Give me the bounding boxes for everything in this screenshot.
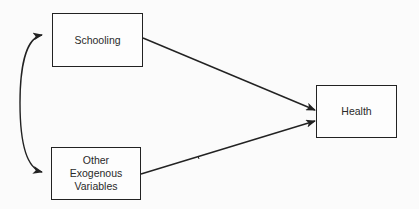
arrow-other-to-health [141,121,315,174]
node-other-exogenous-variables: Other Exogenous Variables [51,147,141,200]
node-health-label: Health [341,105,371,118]
node-schooling-label: Schooling [74,34,120,47]
correlation-curved-arrow [20,35,42,172]
arrow-schooling-to-health [143,38,315,110]
node-health: Health [316,85,397,138]
node-other-label-line1: Other [83,154,109,167]
node-schooling: Schooling [52,13,143,67]
node-other-label-line3: Variables [75,180,118,193]
node-other-label-line2: Exogenous [70,167,123,180]
